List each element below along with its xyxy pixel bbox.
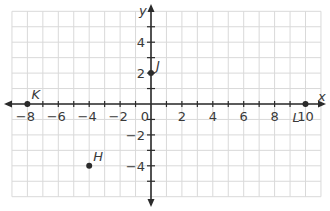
point-label: L [293,110,300,125]
x-tick-label: 0 [141,109,149,124]
y-axis-down-arrow-icon [148,199,155,207]
x-axis-label: x [317,89,326,104]
coordinate-plane: −8−6−4−20246810−4−224 KJHL x y [0,0,330,211]
x-tick-label: 8 [270,109,278,124]
axes [4,4,326,207]
x-tick-label: −4 [78,109,97,124]
x-axis-left-arrow-icon [4,101,12,108]
x-tick-label: −2 [109,109,128,124]
point-label: J [153,58,160,73]
point-label: H [93,149,103,164]
x-tick-label: −6 [47,109,66,124]
point-marker [303,101,309,107]
y-tick-label: −2 [126,128,145,143]
x-tick-label: −8 [16,109,35,124]
y-tick-label: 2 [137,66,145,81]
point-marker [148,70,154,76]
y-tick-label: −4 [126,159,145,174]
y-axis-up-arrow-icon [148,4,155,12]
point-marker [24,101,30,107]
point-label: K [31,87,41,102]
x-tick-label: 6 [240,109,248,124]
y-tick-label: 4 [137,35,145,50]
point-marker [86,163,92,169]
x-tick-label: 2 [178,109,186,124]
y-axis-label: y [138,3,147,18]
x-tick-label: 4 [209,109,217,124]
